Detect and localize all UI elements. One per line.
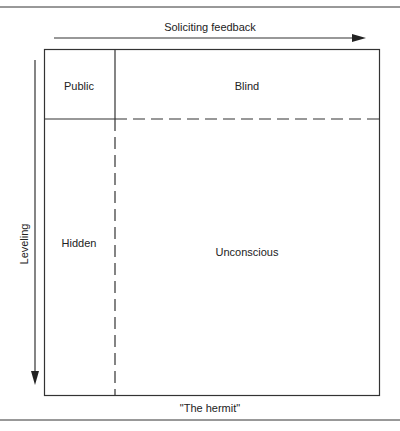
diagram-lines bbox=[0, 0, 400, 431]
quadrant-hidden: Hidden bbox=[62, 237, 97, 249]
quadrant-blind: Blind bbox=[235, 80, 259, 92]
leveling-label: Leveling bbox=[18, 224, 30, 265]
quadrant-unconscious: Unconscious bbox=[216, 246, 279, 258]
window-box bbox=[45, 50, 380, 396]
leveling-arrow-head bbox=[31, 371, 39, 385]
quadrant-public: Public bbox=[64, 80, 94, 92]
soliciting-arrow-head bbox=[352, 34, 366, 42]
caption-the-hermit: "The hermit" bbox=[180, 402, 240, 414]
soliciting-feedback-label: Soliciting feedback bbox=[164, 21, 256, 33]
